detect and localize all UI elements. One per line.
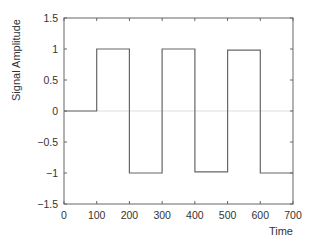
y-tick-label: −0.5 [37, 136, 58, 148]
y-tick-label: −1.5 [37, 198, 58, 210]
y-tick-label: 1 [52, 43, 58, 55]
x-tick-label: 400 [186, 209, 204, 221]
x-tick-label: 0 [61, 209, 67, 221]
square-wave-chart: 0100200300400500600700 −1.5−1−0.500.511.… [0, 0, 315, 247]
y-tick-label: −1 [46, 167, 58, 179]
y-tick-label: 1.5 [43, 12, 58, 24]
x-tick-label: 700 [284, 209, 302, 221]
y-tick-label: 0.5 [43, 74, 58, 86]
y-tick-label: 0 [52, 105, 58, 117]
x-tick-label: 300 [153, 209, 171, 221]
y-axis-title: Signal Amplitude [10, 19, 22, 101]
x-tick-label: 100 [88, 209, 106, 221]
x-tick-label: 600 [252, 209, 270, 221]
x-axis-title: Time [269, 225, 293, 237]
x-tick-label: 500 [219, 209, 237, 221]
x-tick-label: 200 [121, 209, 139, 221]
